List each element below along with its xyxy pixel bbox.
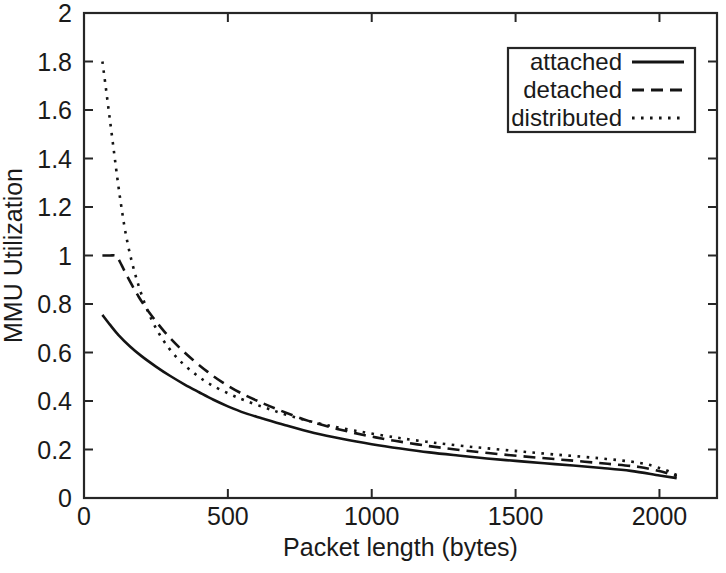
series-line-attached	[102, 315, 676, 478]
legend-label-distributed: distributed	[511, 104, 622, 131]
y-tick-label-0: 0	[58, 484, 72, 512]
y-axis-title: MMU Utilization	[0, 168, 27, 343]
mmu-utilization-line-chart: 0500100015002000 00.20.40.60.811.21.41.6…	[0, 0, 726, 573]
chart-figure: 0500100015002000 00.20.40.60.811.21.41.6…	[0, 0, 726, 573]
x-axis-tick-labels: 0500100015002000	[77, 502, 687, 530]
y-tick-label-1.8: 1.8	[37, 48, 72, 76]
legend-label-attached: attached	[530, 48, 622, 75]
x-tick-label-1000: 1000	[344, 502, 400, 530]
x-tick-label-500: 500	[207, 502, 249, 530]
y-tick-label-1: 1	[58, 242, 72, 270]
chart-legend: attacheddetacheddistributed	[508, 48, 695, 132]
y-tick-label-0.4: 0.4	[37, 387, 72, 415]
legend-label-detached: detached	[523, 76, 622, 103]
y-tick-label-1.2: 1.2	[37, 193, 72, 221]
y-axis-tick-labels: 00.20.40.60.811.21.41.61.82	[37, 0, 72, 512]
y-tick-label-1.6: 1.6	[37, 96, 72, 124]
y-tick-label-2: 2	[58, 0, 72, 27]
y-tick-label-0.6: 0.6	[37, 339, 72, 367]
x-axis-title: Packet length (bytes)	[283, 533, 518, 561]
x-tick-label-0: 0	[77, 502, 91, 530]
series-line-detached	[102, 255, 676, 476]
x-tick-label-2000: 2000	[632, 502, 688, 530]
y-tick-label-0.8: 0.8	[37, 290, 72, 318]
x-tick-label-1500: 1500	[488, 502, 544, 530]
y-tick-label-1.4: 1.4	[37, 145, 72, 173]
y-tick-label-0.2: 0.2	[37, 436, 72, 464]
